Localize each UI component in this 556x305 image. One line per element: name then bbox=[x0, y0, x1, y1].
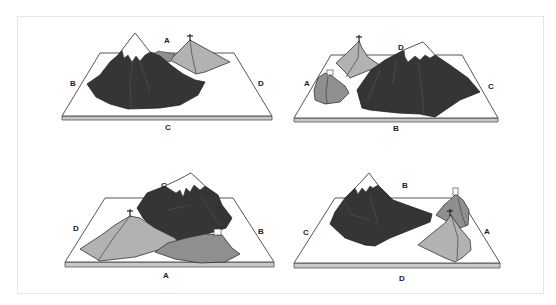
panel-view-a: C D A B bbox=[65, 173, 274, 280]
label-right: D bbox=[258, 79, 264, 88]
label-top: A bbox=[164, 36, 170, 45]
label-left: C bbox=[303, 228, 309, 237]
label-bottom: D bbox=[399, 274, 405, 283]
house-icon bbox=[214, 229, 221, 235]
house-icon bbox=[453, 188, 458, 195]
cross-icon bbox=[187, 34, 193, 41]
panel-view-d: B C D A bbox=[294, 173, 500, 283]
label-bottom: B bbox=[393, 124, 399, 133]
label-right: B bbox=[258, 227, 264, 236]
label-right: C bbox=[488, 82, 494, 91]
label-top: D bbox=[398, 43, 404, 52]
label-top: B bbox=[402, 181, 408, 190]
label-left: A bbox=[304, 79, 310, 88]
panel-view-b: D A B C bbox=[294, 35, 498, 133]
label-right: A bbox=[484, 227, 490, 236]
panel-view-c: A B C D bbox=[62, 33, 272, 132]
cross-icon bbox=[356, 35, 362, 42]
house-icon bbox=[327, 70, 333, 75]
label-top: C bbox=[161, 181, 167, 190]
label-left: D bbox=[73, 224, 79, 233]
label-bottom: A bbox=[163, 271, 169, 280]
three-mountains-diagram: A B C D D A B C bbox=[0, 0, 556, 305]
label-bottom: C bbox=[165, 123, 171, 132]
label-left: B bbox=[70, 79, 76, 88]
